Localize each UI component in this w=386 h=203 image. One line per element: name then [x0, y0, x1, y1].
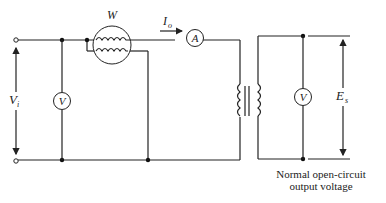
current-subscript: o [168, 21, 172, 30]
output-voltage-subscript: s [345, 96, 348, 105]
wattmeter-label: W [107, 8, 118, 22]
input-voltage-subscript: i [17, 100, 19, 109]
primary-top-wire [18, 40, 240, 160]
input-voltmeter: V [54, 40, 71, 160]
output-voltmeter: V [295, 36, 312, 159]
current-arrow: I o [160, 14, 182, 31]
caption-line2: output voltage [289, 180, 352, 192]
transformer [238, 84, 261, 116]
output-voltage-dimension: E s [308, 36, 350, 159]
ammeter: A [187, 30, 204, 47]
circuit-diagram: V V i W I o A [0, 0, 386, 203]
caption-line1: Normal open-circuit [276, 168, 366, 180]
ammeter-label: A [191, 32, 199, 44]
junction-dot [85, 38, 89, 42]
junction-dot [146, 158, 150, 162]
output-voltage-label: E [335, 88, 344, 103]
input-terminal-bottom [14, 159, 18, 163]
input-terminal-top [14, 38, 18, 42]
input-voltage-arrow: V i [9, 48, 19, 154]
wattmeter: W [93, 8, 131, 64]
